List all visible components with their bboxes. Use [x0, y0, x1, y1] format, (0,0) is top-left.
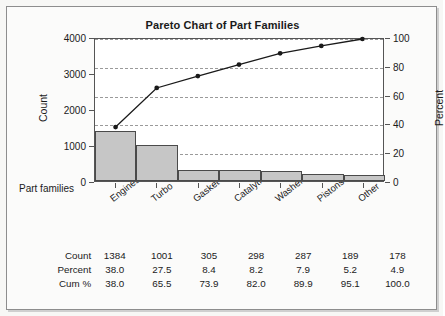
plot-area: [94, 38, 384, 182]
table-cell: 38.0: [91, 277, 138, 291]
table-cell: 1384: [91, 249, 138, 263]
cumulative-point: [278, 51, 283, 56]
table-cell: 82.0: [233, 277, 280, 291]
chart-title: Pareto Chart of Part Families: [7, 19, 438, 31]
y-tick-right: [385, 96, 390, 97]
table-cell: 8.2: [233, 263, 280, 277]
cumulative-point: [113, 125, 118, 130]
cumulative-point: [360, 37, 365, 42]
table-cell: 178: [374, 249, 421, 263]
table-cell: 1001: [138, 249, 185, 263]
y-tick-label-left: 4000: [42, 33, 86, 44]
table-cell: 89.9: [280, 277, 327, 291]
data-table: Count13841001305298287189178Percent38.02…: [19, 249, 421, 291]
y-tick-right: [385, 67, 390, 68]
y-tick-label-right: 100: [393, 33, 423, 44]
cumulative-point: [237, 62, 242, 67]
table-cell: 287: [280, 249, 327, 263]
y-tick-label-right: 0: [393, 177, 423, 188]
table-cell: 95.1: [327, 277, 374, 291]
y-tick-label-right: 40: [393, 119, 423, 130]
y-tick-label-right: 20: [393, 148, 423, 159]
y-axis-title-count: Count: [37, 73, 49, 143]
cumulative-percent-line: [95, 39, 383, 181]
table-cell: 100.0: [374, 277, 421, 291]
table-cell: 73.9: [185, 277, 232, 291]
y-tick-label-right: 60: [393, 90, 423, 101]
table-row: Cum %38.065.573.982.089.995.1100.0: [19, 277, 421, 291]
cumulative-point: [319, 44, 324, 49]
table-cell: 7.9: [280, 263, 327, 277]
table-row-label: Cum %: [19, 277, 91, 291]
table-cell: 298: [233, 249, 280, 263]
y-tick-label-left: 0: [42, 177, 86, 188]
x-tick-label: Other: [356, 181, 381, 204]
cumulative-point: [195, 74, 200, 79]
table-cell: 8.4: [185, 263, 232, 277]
table-row-label: Percent: [19, 263, 91, 277]
x-tick-label: Turbo: [149, 180, 175, 204]
table-cell: 65.5: [138, 277, 185, 291]
table-cell: 4.9: [374, 263, 421, 277]
x-tick: [198, 183, 199, 188]
y-axis-title-percent: Percent: [433, 73, 445, 143]
cumulative-point: [154, 86, 159, 91]
table-row: Percent38.027.58.48.27.95.24.9: [19, 263, 421, 277]
table-cell: 189: [327, 249, 374, 263]
table-cell: 27.5: [138, 263, 185, 277]
y-tick-left: [89, 182, 94, 183]
table-row: Count13841001305298287189178: [19, 249, 421, 263]
y-tick-right: [385, 153, 390, 154]
y-tick-right: [385, 182, 390, 183]
y-tick-label-right: 80: [393, 61, 423, 72]
table-cell: 38.0: [91, 263, 138, 277]
table-row-label: Count: [19, 249, 91, 263]
table-cell: 305: [185, 249, 232, 263]
y-tick-right: [385, 38, 390, 39]
y-tick-right: [385, 124, 390, 125]
chart-frame: Pareto Chart of Part Families Part famil…: [6, 6, 437, 310]
table-cell: 5.2: [327, 263, 374, 277]
cumulative-line-path: [116, 39, 363, 127]
